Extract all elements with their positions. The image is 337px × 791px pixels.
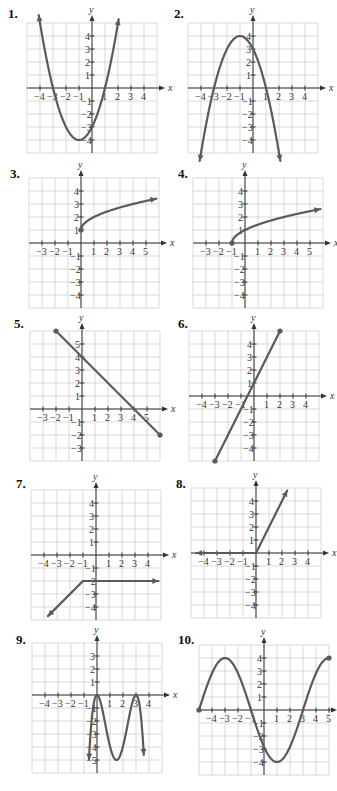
graph-panel-1: 1.xy−4−3−2−112344321−1−2−3−4 [0, 0, 169, 160]
y-tick-label: −2 [70, 264, 81, 275]
x-tick-label: −4 [39, 698, 50, 709]
y-tick-label: 1 [75, 391, 80, 402]
x-tick-label: 5 [307, 246, 312, 257]
x-tick-label: 4 [145, 558, 150, 569]
x-tick-label: −3 [37, 412, 48, 423]
y-tick-label: 1 [246, 70, 251, 81]
graph-panel-4: 4.xy−3−2−1123454321−1−2−3−4 [168, 160, 337, 320]
y-axis-arrow-icon [252, 323, 257, 329]
y-tick-label: −3 [70, 277, 81, 288]
y-axis-arrow-icon [79, 170, 84, 176]
y-axis-label: y [78, 312, 84, 323]
x-tick-label: −3 [211, 556, 222, 567]
coordinate-plane: xy−4−3−2−11234321−1−2−3−4−5 [0, 630, 169, 790]
endpoint-dot [212, 458, 217, 463]
y-axis-label: y [88, 4, 94, 15]
y-axis-label: y [77, 159, 83, 170]
x-tick-label: −2 [221, 91, 232, 102]
y-tick-label: 1 [89, 537, 94, 548]
y-tick-label: −1 [245, 561, 256, 572]
graph-panel-3: 3.xy−3−2−1123454321−1−2−3−4 [0, 160, 169, 320]
x-tick-label: 2 [277, 399, 282, 410]
y-tick-label: −1 [70, 251, 81, 262]
y-tick-label: 4 [89, 498, 94, 509]
x-tick-label: −2 [50, 412, 61, 423]
x-axis-arrow-icon [321, 394, 327, 399]
y-tick-label: 2 [89, 524, 94, 535]
x-tick-label: 4 [146, 698, 151, 709]
x-tick-label: 2 [120, 698, 125, 709]
x-tick-label: −2 [222, 399, 233, 410]
y-axis-arrow-icon [254, 480, 259, 486]
y-tick-label: −1 [234, 251, 245, 262]
y-tick-label: 1 [85, 70, 90, 81]
x-tick-label: 5 [143, 246, 148, 257]
y-tick-label: −4 [245, 600, 256, 611]
y-tick-label: −1 [242, 96, 253, 107]
x-axis-arrow-icon [325, 241, 331, 246]
x-tick-label: 4 [303, 399, 308, 410]
y-axis-label: y [252, 469, 258, 480]
y-tick-label: 2 [238, 212, 243, 223]
x-tick-label: −3 [51, 558, 62, 569]
y-tick-label: 4 [238, 186, 243, 197]
x-tick-label: 3 [132, 558, 137, 569]
y-tick-label: 1 [90, 677, 95, 688]
x-tick-label: 2 [105, 412, 110, 423]
x-tick-label: 4 [302, 91, 307, 102]
y-tick-label: 3 [257, 666, 262, 677]
x-tick-label: 1 [91, 246, 96, 257]
x-tick-label: −2 [49, 246, 60, 257]
y-tick-label: −1 [81, 96, 92, 107]
y-tick-label: −2 [81, 109, 92, 120]
y-tick-label: 4 [257, 653, 262, 664]
coordinate-plane: xy−4−3−2−1123454321−1−2−3−4 [168, 630, 337, 790]
y-tick-label: 4 [74, 186, 79, 197]
y-axis-label: y [92, 471, 98, 482]
y-tick-label: −1 [243, 404, 254, 415]
function-curve [48, 581, 158, 616]
graph-panel-9: 9.xy−4−3−2−11234321−1−2−3−4−5 [0, 630, 169, 790]
x-tick-label: −2 [64, 558, 75, 569]
x-tick-label: 1 [274, 713, 279, 724]
x-tick-label: 4 [305, 556, 310, 567]
coordinate-plane: xy−3−2−11234554321−1−2−3 [0, 320, 169, 480]
x-tick-label: −3 [209, 399, 220, 410]
y-tick-label: 3 [89, 511, 94, 522]
y-tick-label: 1 [74, 225, 79, 236]
y-tick-label: −4 [243, 443, 254, 454]
x-tick-label: 3 [292, 556, 297, 567]
y-tick-label: −3 [253, 744, 264, 755]
y-tick-label: 1 [257, 692, 262, 703]
y-tick-label: 3 [74, 199, 79, 210]
y-tick-label: 2 [74, 212, 79, 223]
x-tick-label: 2 [279, 556, 284, 567]
y-axis-arrow-icon [95, 635, 100, 641]
y-tick-label: 2 [249, 522, 254, 533]
y-tick-label: 2 [257, 679, 262, 690]
x-tick-label: −4 [34, 91, 45, 102]
x-tick-label: −4 [196, 399, 207, 410]
endpoint-dot [196, 707, 201, 712]
y-tick-label: −2 [71, 430, 82, 441]
graph-panel-7: 7.xy−4−3−2−112344321−1−2−3−4 [0, 472, 169, 632]
y-tick-label: 4 [249, 496, 254, 507]
y-tick-label: 2 [90, 664, 95, 675]
x-tick-label: 4 [130, 246, 135, 257]
y-tick-label: 3 [247, 352, 252, 363]
endpoint-dot [277, 328, 282, 333]
y-tick-label: −3 [234, 277, 245, 288]
x-tick-label: 2 [104, 246, 109, 257]
y-tick-label: 2 [247, 365, 252, 376]
x-tick-label: 4 [131, 412, 136, 423]
function-curve [196, 491, 287, 553]
x-tick-label: 1 [107, 698, 112, 709]
y-tick-label: −3 [243, 430, 254, 441]
y-axis-arrow-icon [90, 15, 95, 21]
y-axis-arrow-icon [94, 482, 99, 488]
y-tick-label: −4 [86, 742, 97, 753]
graph-panel-6: 6.xy−4−3−2−112344321−1−2−3−4 [168, 320, 337, 480]
y-tick-label: −4 [253, 757, 264, 768]
x-tick-label: 2 [115, 91, 120, 102]
x-tick-label: −4 [198, 556, 209, 567]
